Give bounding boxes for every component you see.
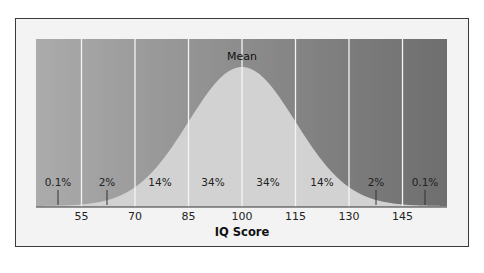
x-axis-label: IQ Score [215,225,270,239]
percent-label: 2% [99,176,116,188]
x-tick-label: 100 [232,210,253,223]
percent-label: 34% [201,176,224,188]
percent-label: 14% [148,176,171,188]
percent-label: 2% [368,176,385,188]
mean-annotation: Mean [227,50,257,63]
x-tick-label: 130 [339,210,360,223]
percent-label: 0.1% [412,176,439,188]
x-tick-label: 55 [75,210,89,223]
percent-label: 34% [256,176,279,188]
x-axis-ticks: 557085100115130145 [75,210,414,223]
x-tick-label: 85 [182,210,196,223]
percent-label: 14% [310,176,333,188]
x-tick-label: 70 [128,210,142,223]
x-tick-label: 115 [285,210,306,223]
percent-label: 0.1% [45,176,72,188]
iq-distribution-chart: 0.1%2%14%34%34%14%2%0.1% Mean 5570851001… [0,0,484,273]
x-tick-label: 145 [392,210,413,223]
